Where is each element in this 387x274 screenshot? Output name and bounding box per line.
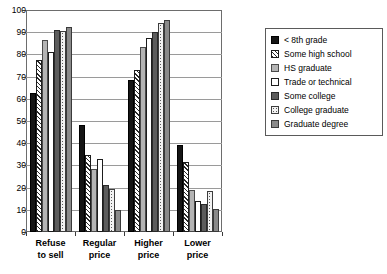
legend-item: Graduate degree xyxy=(271,117,378,131)
legend-swatch-icon xyxy=(271,78,279,86)
x-axis-category-label: Higherprice xyxy=(124,238,173,261)
x-axis-category-label-line: price xyxy=(124,250,173,262)
x-axis-category-label-line: Regular xyxy=(75,238,124,250)
legend-swatch-icon xyxy=(271,120,279,128)
bar-group xyxy=(128,10,170,232)
x-axis-tick-mark xyxy=(75,232,76,236)
legend-item-label: HS graduate xyxy=(284,64,332,73)
x-axis-category-label-line: Refuse xyxy=(26,238,75,250)
legend-item: Trade or technical xyxy=(271,75,378,89)
chart-legend: < 8th gradeSome high schoolHS graduateTr… xyxy=(265,28,383,136)
y-axis: 0102030405060708090100 xyxy=(0,10,26,232)
legend-item-label: College graduate xyxy=(284,106,349,115)
legend-item: College graduate xyxy=(271,103,378,117)
legend-item-label: Some high school xyxy=(284,50,352,59)
x-axis-tick-mark xyxy=(26,232,27,236)
bar xyxy=(66,27,72,232)
x-axis-category-label-line: price xyxy=(173,250,222,262)
x-axis-category-label-line: to sell xyxy=(26,250,75,262)
plot-area xyxy=(26,10,222,232)
x-axis-tick-mark xyxy=(222,232,223,236)
legend-item: Some high school xyxy=(271,47,378,61)
legend-swatch-icon xyxy=(271,50,279,58)
legend-swatch-icon xyxy=(271,36,279,44)
bar-group xyxy=(177,10,219,232)
x-axis-tick-mark xyxy=(173,232,174,236)
legend-item: Some college xyxy=(271,89,378,103)
legend-item-label: Trade or technical xyxy=(284,78,352,87)
bar xyxy=(164,20,170,232)
bar-chart: 0102030405060708090100 Refuseto sellRegu… xyxy=(0,0,387,274)
legend-swatch-icon xyxy=(271,92,279,100)
bar-group xyxy=(30,10,72,232)
legend-item-label: Some college xyxy=(284,92,336,101)
x-axis-tick-mark xyxy=(124,232,125,236)
legend-swatch-icon xyxy=(271,64,279,72)
x-axis-category-label-line: Lower xyxy=(173,238,222,250)
x-axis-category-label: Refuseto sell xyxy=(26,238,75,261)
x-axis-category-label-line: Higher xyxy=(124,238,173,250)
x-axis-category-label: Regularprice xyxy=(75,238,124,261)
legend-item: HS graduate xyxy=(271,61,378,75)
x-axis-category-label: Lowerprice xyxy=(173,238,222,261)
bar-group xyxy=(79,10,121,232)
bar xyxy=(115,210,121,232)
legend-item-label: < 8th grade xyxy=(284,36,327,45)
bar xyxy=(213,209,219,232)
legend-item: < 8th grade xyxy=(271,33,378,47)
x-axis-category-label-line: price xyxy=(75,250,124,262)
legend-item-label: Graduate degree xyxy=(284,120,348,129)
legend-swatch-icon xyxy=(271,106,279,114)
